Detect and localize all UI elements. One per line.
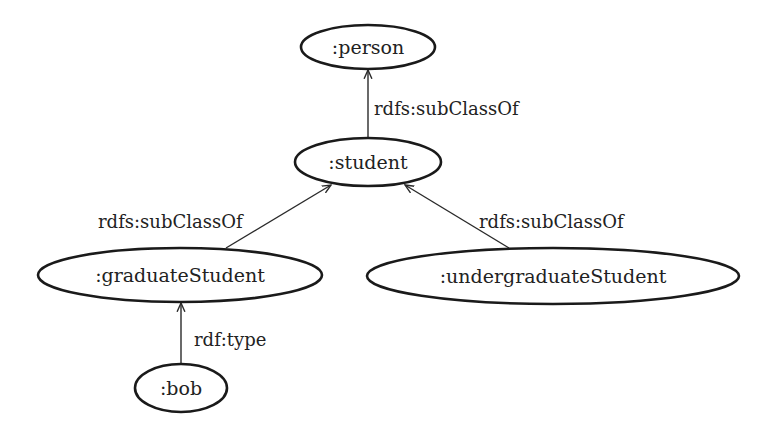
edge-student-to-person: rdfs:subClassOf	[368, 70, 520, 138]
node-student: :student	[295, 138, 441, 186]
edges: rdfs:subClassOfrdfs:subClassOfrdfs:subCl…	[98, 70, 625, 364]
node-label: :person	[332, 36, 404, 58]
node-label: :undergraduateStudent	[440, 265, 667, 287]
node-label: :student	[328, 151, 408, 173]
node-label: :graduateStudent	[95, 264, 265, 286]
edge-label: rdfs:subClassOf	[374, 98, 520, 119]
edge-graduateStudent-to-student: rdfs:subClassOf	[98, 185, 331, 248]
edge-label: rdfs:subClassOf	[98, 211, 244, 232]
node-undergraduateStudent: :undergraduateStudent	[367, 248, 739, 304]
node-label: :bob	[160, 377, 202, 399]
node-bob: :bob	[135, 364, 227, 412]
edge-bob-to-graduateStudent: rdf:type	[181, 303, 266, 364]
edge-label: rdf:type	[194, 329, 266, 350]
node-graduateStudent: :graduateStudent	[38, 248, 322, 302]
edge-undergraduateStudent-to-student: rdfs:subClassOf	[405, 185, 625, 248]
edge-label: rdfs:subClassOf	[479, 211, 625, 232]
rdf-class-diagram: rdfs:subClassOfrdfs:subClassOfrdfs:subCl…	[0, 0, 769, 440]
node-person: :person	[301, 25, 435, 69]
